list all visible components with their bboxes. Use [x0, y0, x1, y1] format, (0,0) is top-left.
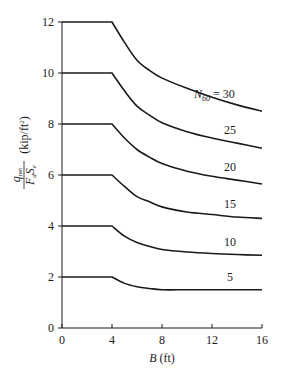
- svg-text:(kip/ft2): (kip/ft2): [17, 116, 31, 154]
- y-tick-label: 12: [42, 15, 54, 29]
- x-axis-label: B (ft): [149, 351, 175, 365]
- series-label: 10: [224, 235, 236, 249]
- series-label: 15: [224, 197, 236, 211]
- x-tick-label: 12: [206, 333, 218, 347]
- y-tick-label: 10: [42, 66, 54, 80]
- curves: [62, 22, 262, 290]
- y-tick-label: 2: [48, 270, 54, 284]
- svg-text:FdSe: FdSe: [23, 165, 38, 186]
- series-label: N60 = 30: [193, 87, 235, 103]
- svg-text:qnet: qnet: [9, 168, 24, 183]
- y-tick-label: 4: [48, 219, 54, 233]
- y-ticks: 024681012: [42, 15, 62, 335]
- x-ticks: 0481216: [59, 324, 268, 347]
- x-tick-label: 4: [109, 333, 115, 347]
- y-tick-label: 8: [48, 117, 54, 131]
- series-label: 20: [224, 160, 236, 174]
- y-axis-label: qnet FdSe (kip/ft2): [9, 116, 38, 189]
- x-tick-label: 8: [159, 333, 165, 347]
- series-label: 5: [227, 270, 233, 284]
- series-label: 25: [224, 123, 236, 137]
- x-tick-label: 16: [256, 333, 268, 347]
- bearing-capacity-chart: 024681012 0481216 N60 = 30252015105 B (f…: [0, 0, 281, 376]
- y-tick-label: 6: [48, 168, 54, 182]
- y-tick-label: 0: [48, 321, 54, 335]
- x-tick-label: 0: [59, 333, 65, 347]
